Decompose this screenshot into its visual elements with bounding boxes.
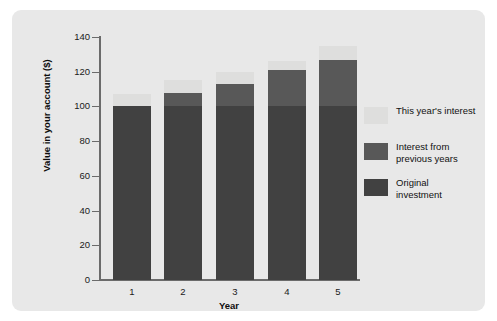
legend-item[interactable]: Interest from previous years [364, 142, 476, 168]
y-tick-mark [92, 106, 100, 107]
bar-segment[interactable] [113, 106, 151, 280]
x-axis-title: Year [100, 300, 358, 311]
bar-segment[interactable] [319, 46, 357, 60]
y-tick-label: 20 [28, 239, 90, 250]
bar-segment[interactable] [216, 106, 254, 280]
bar-segment[interactable] [268, 106, 306, 280]
bar-segment[interactable] [216, 84, 254, 107]
bar-segment[interactable] [319, 60, 357, 107]
y-tick-mark [92, 211, 100, 212]
x-tick-label: 2 [164, 286, 202, 297]
bar-segment[interactable] [113, 94, 151, 106]
y-tick-mark [92, 176, 100, 177]
bar-segment[interactable] [268, 61, 306, 70]
legend-label: Interest from previous years [396, 141, 476, 164]
y-tick-label: 140 [28, 31, 90, 42]
chart-figure: Value in your account ($) Year 020406080… [12, 10, 485, 311]
legend-swatch [364, 107, 388, 124]
legend-item[interactable]: Original investment [364, 178, 476, 204]
y-tick-mark [92, 37, 100, 38]
x-tick-label: 3 [216, 286, 254, 297]
x-tick-label: 5 [319, 286, 357, 297]
y-tick-mark [92, 245, 100, 246]
y-tick-label: 0 [28, 274, 90, 285]
x-tick-label: 4 [268, 286, 306, 297]
x-tick-label: 1 [113, 286, 151, 297]
y-tick-label: 40 [28, 205, 90, 216]
y-tick-mark [92, 72, 100, 73]
chart-legend: This year's interestInterest from previo… [364, 106, 476, 214]
y-tick-mark [92, 141, 100, 142]
bar-segment[interactable] [319, 106, 357, 280]
plot-area [100, 37, 358, 280]
y-tick-label: 80 [28, 135, 90, 146]
legend-item[interactable]: This year's interest [364, 106, 476, 132]
legend-swatch [364, 179, 388, 196]
bar-segment[interactable] [164, 106, 202, 280]
legend-swatch [364, 143, 388, 160]
bar-segment[interactable] [164, 80, 202, 92]
bar-segment[interactable] [216, 72, 254, 84]
y-tick-label: 100 [28, 100, 90, 111]
bar-segment[interactable] [164, 93, 202, 107]
y-tick-label: 60 [28, 170, 90, 181]
y-tick-label: 120 [28, 66, 90, 77]
legend-label: Original investment [396, 177, 476, 200]
legend-label: This year's interest [396, 105, 476, 117]
y-tick-mark [92, 280, 100, 281]
bar-segment[interactable] [268, 70, 306, 106]
